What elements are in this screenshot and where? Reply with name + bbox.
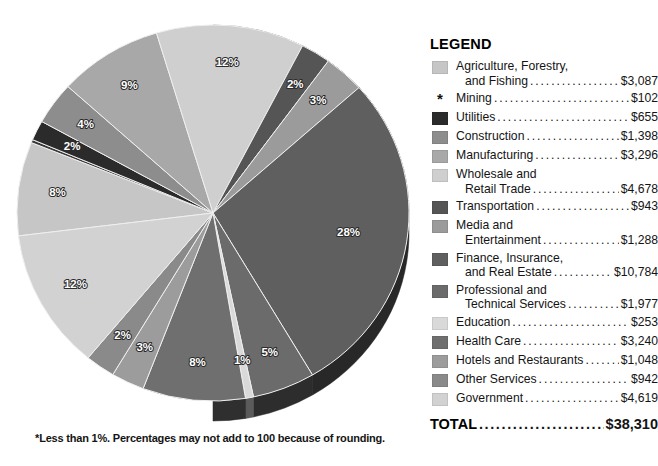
- legend-color-swatch: [432, 150, 448, 163]
- legend-item[interactable]: *Mining.................................…: [428, 91, 658, 107]
- pie-slice-percent-label: 28%: [337, 226, 360, 238]
- legend-leader-dots: ........................................…: [523, 334, 619, 349]
- legend-item-name: Health Care: [456, 334, 521, 349]
- pie-slice-percent-label: 8%: [49, 186, 66, 198]
- legend-item-label-line1: Agriculture, Forestry,: [456, 59, 658, 74]
- legend-leader-dots: ........................................…: [543, 233, 619, 248]
- pie-slice-percent-label: 2%: [64, 140, 81, 152]
- legend-color-swatch: [432, 61, 448, 74]
- legend-item-amount: $1,977: [621, 297, 658, 312]
- pie-slice-side: [213, 398, 246, 421]
- legend-item-body: Health Care.............................…: [456, 334, 658, 349]
- legend-item-amount: $102: [631, 91, 658, 106]
- legend-item-body: Hotels and Restaurants..................…: [456, 353, 658, 368]
- pie-chart-figure: 8%2%4%9%12%2%3%28%5%1%8%3%2%12% *Less th…: [0, 0, 658, 466]
- legend-item-body: Mining..................................…: [456, 91, 658, 106]
- legend-item-amount: $253: [631, 315, 658, 330]
- legend-item[interactable]: Media andEntertainment..................…: [428, 218, 658, 247]
- legend-item-amount: $4,619: [621, 391, 658, 406]
- legend-item-name: Manufacturing: [456, 148, 533, 163]
- legend-item-label-line2: Other Services..........................…: [456, 372, 658, 387]
- legend-item-label-line2: Transportation..........................…: [456, 199, 658, 214]
- legend-item[interactable]: Transportation..........................…: [428, 199, 658, 215]
- legend-item-label-line2: Government..............................…: [456, 391, 658, 406]
- legend-item-label-line2: Hotels and Restaurants..................…: [456, 353, 658, 368]
- legend-item-body: Transportation..........................…: [456, 199, 658, 214]
- legend-leader-dots: ........................................…: [526, 129, 618, 144]
- legend-leader-dots: ........................................…: [525, 391, 619, 406]
- legend-item-label-line1: Wholesale and: [456, 167, 658, 182]
- legend-leader-dots: ........................................…: [512, 315, 629, 330]
- legend-item[interactable]: Education...............................…: [428, 315, 658, 331]
- legend-item-name: Utilities: [456, 110, 495, 125]
- pie-slice-percent-label: 12%: [64, 278, 87, 290]
- legend-item-amount: $942: [631, 372, 658, 387]
- legend-item-label-line2: Construction............................…: [456, 129, 658, 144]
- legend-item-label-line2: Retail Trade............................…: [456, 182, 658, 197]
- legend-item-amount: $655: [631, 110, 658, 125]
- pie-slice-percent-label: 2%: [287, 78, 304, 90]
- legend-item-amount: $3,240: [621, 334, 658, 349]
- legend-item-name: Entertainment: [465, 233, 541, 248]
- legend-item-amount: $943: [631, 199, 658, 214]
- legend-color-swatch: [432, 112, 448, 125]
- legend-item-label-line2: Manufacturing...........................…: [456, 148, 658, 163]
- legend-item[interactable]: Utilities...............................…: [428, 110, 658, 126]
- legend-item-label-line1: Professional and: [456, 283, 658, 298]
- legend-item-body: Media andEntertainment..................…: [456, 218, 658, 247]
- legend-item-body: Finance, Insurance,and Real Estate......…: [456, 251, 658, 280]
- pie-slice-percent-label: 3%: [136, 341, 153, 353]
- pie-slice-percent-label: 8%: [189, 356, 206, 368]
- chart-footnote: *Less than 1%. Percentages may not add t…: [0, 432, 420, 444]
- legend-item-amount: $10,784: [614, 265, 658, 280]
- pie-slice-percent-label: 1%: [234, 354, 251, 366]
- legend-item-body: Education...............................…: [456, 315, 658, 330]
- legend-item-label-line2: Health Care.............................…: [456, 334, 658, 349]
- legend-color-swatch: [432, 169, 448, 182]
- legend-item-body: Utilities...............................…: [456, 110, 658, 125]
- legend-item[interactable]: Manufacturing...........................…: [428, 148, 658, 164]
- legend-item[interactable]: Finance, Insurance,and Real Estate......…: [428, 251, 658, 280]
- legend-title: LEGEND: [430, 36, 658, 52]
- legend-item-label-line2: and Fishing.............................…: [456, 74, 658, 89]
- legend-item-name: Government: [456, 391, 523, 406]
- legend-item[interactable]: Other Services..........................…: [428, 372, 658, 388]
- legend-leader-dots: ........................................…: [536, 199, 629, 214]
- legend-rows: Agriculture, Forestry,and Fishing.......…: [428, 59, 658, 407]
- legend-total-label: TOTAL: [430, 416, 477, 432]
- legend-leader-dots: ........................................…: [535, 148, 618, 163]
- pie-slice-percent-label: 5%: [261, 346, 278, 358]
- pie-slice-side: [246, 397, 254, 418]
- legend-item[interactable]: Hotels and Restaurants..................…: [428, 353, 658, 369]
- legend-total-amount: $38,310: [606, 416, 658, 432]
- legend-item-name: Technical Services: [465, 297, 566, 312]
- legend-item-label-line2: Mining..................................…: [456, 91, 658, 106]
- legend-item-amount: $4,678: [621, 182, 658, 197]
- legend-item[interactable]: Professional andTechnical Services......…: [428, 283, 658, 312]
- legend-total-leader: ........................................…: [479, 416, 604, 432]
- legend-item-amount: $3,296: [621, 148, 658, 163]
- legend-item[interactable]: Government..............................…: [428, 391, 658, 407]
- legend-item-amount: $1,048: [621, 353, 658, 368]
- legend-item-name: and Real Estate: [465, 265, 552, 280]
- legend-total-row: TOTAL ..................................…: [430, 416, 658, 432]
- legend-item[interactable]: Construction............................…: [428, 129, 658, 145]
- legend-item-label-line2: Education...............................…: [456, 315, 658, 330]
- legend-item-body: Construction............................…: [456, 129, 658, 144]
- legend-leader-dots: ........................................…: [530, 74, 619, 89]
- pie-slice-percent-label: 9%: [121, 79, 138, 91]
- legend-color-swatch: [432, 201, 448, 214]
- legend-item[interactable]: Wholesale andRetail Trade...............…: [428, 167, 658, 196]
- pie-slice-percent-label: 4%: [77, 118, 94, 130]
- pie-slice-percent-label: 3%: [310, 94, 327, 106]
- legend-item[interactable]: Health Care.............................…: [428, 334, 658, 350]
- pie-slice-percent-label: 2%: [114, 329, 131, 341]
- legend-item[interactable]: Agriculture, Forestry,and Fishing.......…: [428, 59, 658, 88]
- legend-panel: LEGEND Agriculture, Forestry,and Fishing…: [428, 0, 658, 466]
- legend-color-swatch: [432, 285, 448, 298]
- legend-leader-dots: ........................................…: [585, 353, 618, 368]
- legend-item-amount: $1,398: [621, 129, 658, 144]
- legend-item-body: Wholesale andRetail Trade...............…: [456, 167, 658, 196]
- legend-color-swatch: [432, 220, 448, 233]
- legend-item-label-line2: Technical Services......................…: [456, 297, 658, 312]
